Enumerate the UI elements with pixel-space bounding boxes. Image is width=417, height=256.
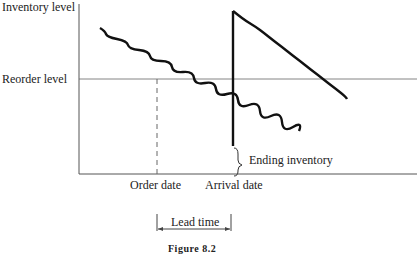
arrival-date-label: Arrival date xyxy=(205,179,263,191)
order-date-label: Order date xyxy=(130,179,181,191)
inventory-depletion-1 xyxy=(100,28,300,131)
inventory-depletion-2 xyxy=(233,11,347,99)
reorder-level-label: Reorder level xyxy=(2,73,67,85)
ending-inventory-brace xyxy=(234,148,242,176)
lead-time-label: Lead time xyxy=(171,216,219,228)
figure-caption: Figure 8.2 xyxy=(168,244,216,254)
y-axis-label: Inventory level xyxy=(2,1,75,13)
ending-inventory-label: Ending inventory xyxy=(249,154,333,166)
